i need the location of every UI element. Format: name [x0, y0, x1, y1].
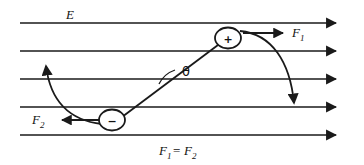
angle-label-theta: θ	[182, 64, 190, 79]
negative-charge-sign: −	[107, 115, 116, 128]
angle-arc	[159, 70, 175, 84]
field-lines-group	[20, 23, 336, 135]
positive-charge: +	[215, 28, 241, 49]
force-f2-label: F 2	[31, 112, 45, 130]
caption-f1-equals-f2: F 1 = F 2	[158, 143, 197, 161]
dipole-field-diagram: + − E F 1 F 2 θ F 1 = F 2	[0, 0, 364, 165]
force-f2-subscript: 2	[40, 120, 45, 130]
caption-f1-subscript: 1	[167, 151, 172, 161]
force-f1-label: F 1	[291, 25, 305, 43]
force-f1-subscript: 1	[300, 33, 305, 43]
field-label-e: E	[65, 7, 74, 22]
dipole-axis-line	[118, 42, 222, 120]
diagram-canvas: + − E F 1 F 2 θ F 1 = F 2	[0, 0, 364, 165]
caption-f2-subscript: 2	[192, 151, 197, 161]
positive-charge-sign: +	[223, 33, 232, 46]
caption-equals-sign: =	[173, 143, 180, 158]
negative-charge: −	[99, 110, 125, 131]
torque-arrow-left	[46, 66, 102, 124]
torque-arrow-right	[240, 31, 294, 103]
